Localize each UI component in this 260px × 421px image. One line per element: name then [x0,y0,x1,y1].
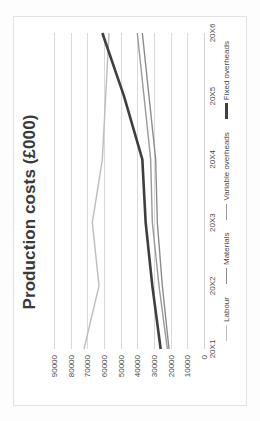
y-tick-label: 80000 [66,355,75,406]
y-tick-label: 10000 [183,355,192,406]
legend-line-icon [225,103,228,119]
x-tick-label: 20X6 [208,24,217,43]
x-tick-label: 20X4 [208,150,217,169]
x-tick-label: 20X1 [208,340,217,359]
legend-item-fixed-overheads[interactable]: Fixed overheads [222,41,231,119]
rotated-chart-wrapper: Production costs (£000) 0100002000030000… [14,17,247,406]
series-lines [54,33,204,349]
y-tick-label: 40000 [133,355,142,406]
legend-item-variable-overheads[interactable]: Variable overheads [222,132,231,219]
x-tick-label: 20X2 [208,276,217,295]
line-chart: Production costs (£000) 0100002000030000… [14,17,247,406]
chart-legend: LabourMaterialsVariable overheadsFixed o… [222,33,231,349]
legend-label: Labour [222,297,231,322]
y-tick-label: 30000 [150,355,159,406]
legend-line-icon [226,268,227,284]
y-tick-label: 90000 [50,355,59,406]
y-tick-label: 60000 [100,355,109,406]
legend-label: Fixed overheads [222,41,231,100]
legend-item-labour[interactable]: Labour [222,297,231,341]
legend-item-materials[interactable]: Materials [222,233,231,284]
plot-area: 0100002000030000400005000060000700008000… [54,33,204,349]
x-tick-label: 20X5 [208,87,217,106]
chart-title: Production costs (£000) [20,17,40,406]
series-line-labour [84,33,109,349]
legend-label: Materials [222,233,231,265]
y-tick-label: 50000 [116,355,125,406]
y-tick-label: 20000 [166,355,175,406]
series-line-variable-overheads [137,33,167,349]
legend-line-icon [226,204,227,220]
y-tick-label: 70000 [83,355,92,406]
legend-label: Variable overheads [222,132,231,200]
y-tick-label: 0 [200,355,209,406]
screenshot-root: Production costs (£000) 0100002000030000… [0,0,260,421]
legend-line-icon [226,325,227,341]
x-tick-label: 20X3 [208,213,217,232]
chart-frame: Production costs (£000) 0100002000030000… [13,16,247,406]
axis-baseline [204,33,205,349]
